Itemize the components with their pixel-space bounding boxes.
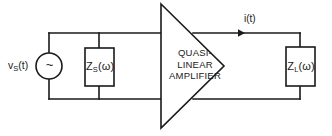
amplifier-label: QUASI- LINEAR AMPLIFIER — [166, 47, 224, 82]
current-direction-arrow-icon — [238, 29, 245, 37]
amplifier-label-line1: QUASI- — [166, 47, 224, 59]
source-impedance-label: ZS(ω) — [86, 61, 114, 72]
load-impedance-label: ZL(ω) — [287, 61, 315, 72]
circuit-diagram-figure: vS(t) ~ ZS(ω) ZL(ω) i(t) QUASI- LINEAR A… — [0, 0, 332, 136]
amplifier-label-line2: LINEAR — [166, 59, 224, 71]
ac-waveform-icon: ~ — [42, 57, 57, 72]
amplifier-label-line3: AMPLIFIER — [166, 70, 224, 82]
current-label: i(t) — [244, 14, 256, 24]
source-voltage-label: vS(t) — [8, 60, 28, 71]
